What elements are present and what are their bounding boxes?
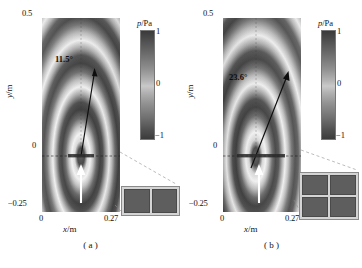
colorbar-unit-b: /Pa xyxy=(322,18,333,28)
y-tick-zero-b: 0 xyxy=(213,140,217,150)
y-axis-unit-b: /m xyxy=(185,84,195,94)
array-element xyxy=(152,189,178,213)
steering-angle-label-b: 23.6° xyxy=(229,72,247,82)
y-axis-symbol-a: y xyxy=(4,94,14,98)
array-element xyxy=(330,197,356,217)
y-axis-unit-a: /m xyxy=(4,84,14,94)
steering-angle-label-a: 11.5° xyxy=(55,54,73,64)
colorbar-title-b: p/Pa xyxy=(318,18,333,28)
colorbar-tick-min-a: −1 xyxy=(155,130,164,140)
x-tick-max-b: 0.27 xyxy=(285,213,299,223)
field-image-b xyxy=(223,18,301,212)
y-axis-label-b: y/m xyxy=(185,84,195,98)
x-axis-label-b: x/m xyxy=(244,224,258,234)
colorbar-unit-a: /Pa xyxy=(141,18,152,28)
colorbar-tick-mid-a: 0 xyxy=(156,78,160,88)
panel-caption-a: ( a ) xyxy=(0,240,181,250)
pressure-field-plot-b xyxy=(223,18,301,212)
colorbar-tick-min-b: −1 xyxy=(336,130,345,140)
x-axis-label-a: x/m xyxy=(63,224,77,234)
y-tick-zero-a: 0 xyxy=(32,140,36,150)
x-tick-min-b: 0 xyxy=(220,213,224,223)
wavefield-a xyxy=(42,18,120,212)
wavefield-b xyxy=(223,18,301,212)
colorbar-tick-max-a: 1 xyxy=(156,26,160,36)
field-image-a xyxy=(42,18,120,212)
transducer-array-inset-a xyxy=(121,186,180,216)
panel-caption-b: ( b ) xyxy=(181,240,362,250)
transducer-array-inset-b xyxy=(299,172,359,220)
y-axis-symbol-b: y xyxy=(185,94,195,98)
y-axis-label-a: y/m xyxy=(4,84,14,98)
colorbar-b xyxy=(321,30,336,140)
y-tick-max-a: 0.5 xyxy=(22,8,32,18)
array-grid-a xyxy=(122,187,179,215)
array-element xyxy=(302,197,328,217)
array-element xyxy=(330,175,356,195)
x-tick-max-a: 0.27 xyxy=(104,213,118,223)
colorbar-title-a: p/Pa xyxy=(137,18,152,28)
pressure-field-plot-a xyxy=(42,18,120,212)
array-element xyxy=(124,189,150,213)
panel-a: 0.5 0 −0.25 0 0.27 x/m y/m 11.5° p/Pa 1 … xyxy=(0,0,181,268)
colorbar-tick-mid-b: 0 xyxy=(337,78,341,88)
x-axis-unit-b: /m xyxy=(248,224,258,234)
colorbar-a xyxy=(140,30,155,140)
y-tick-min-a: −0.25 xyxy=(8,198,27,208)
panel-b: 0.5 0 −0.25 0 0.27 x/m y/m 23.6° p/Pa 1 … xyxy=(181,0,362,268)
array-grid-b xyxy=(300,173,358,219)
colorbar-tick-max-b: 1 xyxy=(337,26,341,36)
x-axis-unit-a: /m xyxy=(67,224,77,234)
x-tick-min-a: 0 xyxy=(39,213,43,223)
array-element xyxy=(302,175,328,195)
y-tick-min-b: −0.25 xyxy=(189,198,208,208)
figure-container: 0.5 0 −0.25 0 0.27 x/m y/m 11.5° p/Pa 1 … xyxy=(0,0,362,268)
y-tick-max-b: 0.5 xyxy=(203,8,213,18)
